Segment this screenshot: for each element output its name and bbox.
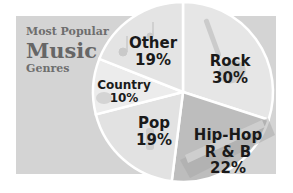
- slice-value: 10%: [97, 92, 151, 105]
- slice-value: 19%: [136, 131, 172, 148]
- slice-name-2: R & B: [194, 144, 262, 161]
- slice-value: 19%: [129, 51, 177, 68]
- slice-name: Pop: [136, 115, 172, 132]
- slice-label-country: Country 10%: [97, 79, 151, 105]
- slice-label-other: Other 19%: [129, 35, 177, 68]
- slice-label-hiphop: Hip-Hop R & B 22%: [194, 127, 262, 177]
- slice-name: Rock: [210, 53, 251, 70]
- slice-label-pop: Pop 19%: [136, 115, 172, 148]
- slice-value: 22%: [194, 160, 262, 177]
- slice-name: Other: [129, 35, 177, 52]
- slice-label-rock: Rock 30%: [210, 53, 251, 86]
- slice-name: Hip-Hop: [194, 127, 262, 144]
- slice-value: 30%: [210, 69, 251, 86]
